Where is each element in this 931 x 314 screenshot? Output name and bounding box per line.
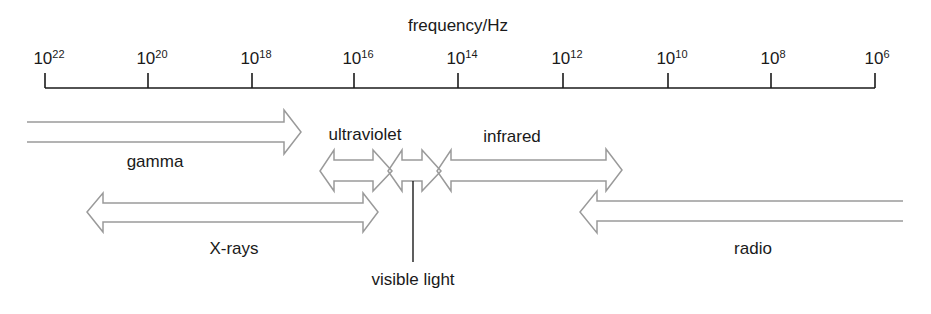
tick-label: 1020 xyxy=(136,50,167,67)
visible-light-arrow-icon xyxy=(388,150,441,191)
tick-label: 108 xyxy=(760,50,785,67)
tick-label: 1014 xyxy=(446,50,477,67)
tick-base: 10 xyxy=(342,49,361,68)
xrays-label: X-rays xyxy=(209,240,258,257)
radio-label: radio xyxy=(734,240,772,257)
tick-exponent: 6 xyxy=(883,48,889,60)
electromagnetic-spectrum-diagram: frequency/Hz 1022 1020 1018 1016 1014 10… xyxy=(0,0,931,314)
tick-exponent: 18 xyxy=(259,48,271,60)
tick-exponent: 12 xyxy=(570,48,582,60)
tick-label: 1018 xyxy=(240,50,271,67)
xrays-arrow-icon xyxy=(87,193,378,232)
tick-exponent: 16 xyxy=(361,48,373,60)
tick-label: 1012 xyxy=(551,50,582,67)
tick-label: 1022 xyxy=(33,50,64,67)
tick-base: 10 xyxy=(33,49,52,68)
tick-exponent: 10 xyxy=(675,48,687,60)
tick-label: 1016 xyxy=(342,50,373,67)
axis-title: frequency/Hz xyxy=(408,17,508,34)
tick-base: 10 xyxy=(446,49,465,68)
ultraviolet-label: ultraviolet xyxy=(329,126,402,143)
infrared-arrow-icon xyxy=(437,149,622,191)
tick-base: 10 xyxy=(240,49,259,68)
radio-arrow-icon xyxy=(580,191,903,233)
tick-base: 10 xyxy=(551,49,570,68)
infrared-label: infrared xyxy=(483,128,541,145)
gamma-label: gamma xyxy=(127,153,184,170)
tick-base: 10 xyxy=(864,49,883,68)
tick-base: 10 xyxy=(760,49,779,68)
gamma-arrow-icon xyxy=(27,110,301,154)
tick-label: 106 xyxy=(864,50,889,67)
tick-base: 10 xyxy=(136,49,155,68)
tick-exponent: 8 xyxy=(779,48,785,60)
frequency-axis xyxy=(45,73,875,88)
ultraviolet-arrow-icon xyxy=(320,150,392,191)
tick-label: 1010 xyxy=(656,50,687,67)
tick-exponent: 20 xyxy=(155,48,167,60)
tick-exponent: 22 xyxy=(52,48,64,60)
visible-light-label: visible light xyxy=(371,271,454,288)
tick-exponent: 14 xyxy=(465,48,477,60)
tick-base: 10 xyxy=(656,49,675,68)
